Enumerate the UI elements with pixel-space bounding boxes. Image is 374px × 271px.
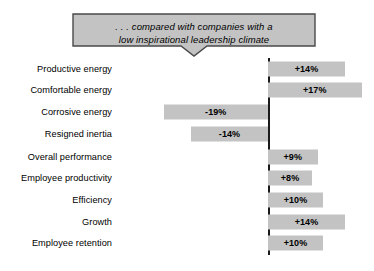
banner-line-2: low inspirational leadership climate	[72, 33, 316, 46]
bar-row: Employee retention+10%	[0, 232, 374, 254]
bar-row: Resigned inertia-14%	[0, 123, 374, 145]
bar-row-label: Comfortable energy	[30, 85, 112, 95]
banner-callout: . . . compared with companies with a low…	[72, 13, 316, 57]
bar-value-label: +10%	[268, 195, 323, 205]
bar-value-label: +10%	[268, 238, 323, 248]
bar-value-label: -19%	[164, 107, 269, 117]
banner-text: . . . compared with companies with a low…	[72, 20, 316, 46]
bar-value-label: +17%	[268, 85, 362, 95]
bar-row: Overall performance+9%	[0, 146, 374, 168]
bar-row-label: Growth	[82, 217, 112, 227]
banner-line-1: . . . compared with companies with a	[72, 20, 316, 33]
bar-row-label: Employee retention	[32, 238, 112, 248]
bar-value-label: +8%	[268, 173, 312, 183]
bar-row-label: Efficiency	[72, 195, 112, 205]
bar-value-label: +14%	[268, 217, 345, 227]
bar-row: Productive energy+14%	[0, 58, 374, 80]
bar-value-label: +14%	[268, 64, 345, 74]
bar-row-label: Employee productivity	[21, 173, 112, 183]
bar-row: Employee productivity+8%	[0, 168, 374, 190]
plot-area: Productive energy+14%Comfortable energy+…	[0, 58, 374, 258]
bar-row-label: Productive energy	[37, 64, 112, 74]
bar-row: Comfortable energy+17%	[0, 80, 374, 102]
bar-row: Efficiency+10%	[0, 189, 374, 211]
bar-row: Growth+14%	[0, 211, 374, 233]
bar-row-label: Resigned inertia	[45, 129, 112, 139]
chart-figure: . . . compared with companies with a low…	[0, 0, 374, 271]
bar-row-label: Corrosive energy	[41, 107, 112, 117]
bar-value-label: -14%	[191, 129, 268, 139]
bar-value-label: +9%	[268, 152, 318, 162]
bar-row: Corrosive energy-19%	[0, 101, 374, 123]
bar-row-label: Overall performance	[28, 152, 112, 162]
